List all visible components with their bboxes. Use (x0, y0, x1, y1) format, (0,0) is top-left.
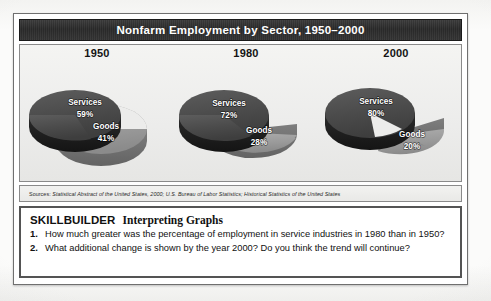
year-label-row: 1950 1980 2000 (20, 47, 461, 63)
skillbuilder-question-list: 1. How much greater was the percentage o… (30, 228, 452, 255)
pie-chart-2000: Services 80% Goods 20% (320, 63, 470, 173)
question-number-2: 2. (30, 242, 45, 253)
chart-panel: 1950 1980 2000 (19, 44, 462, 182)
skillbuilder-box: SKILLBUILDER Interpreting Graphs 1. How … (19, 206, 462, 278)
question-text-2: What additional change is shown by the y… (45, 242, 452, 254)
page-background: Nonfarm Employment by Sector, 1950–2000 … (0, 0, 491, 301)
slice-label-goods-2000: Goods (399, 130, 425, 139)
source-item-1: Statistical Abstract of the United State… (52, 191, 164, 197)
figure-title-bar: Nonfarm Employment by Sector, 1950–2000 (19, 19, 462, 41)
source-item-2: U.S. Bureau of Labor Statistics; (166, 191, 243, 197)
pie-chart-1980: Services 72% Goods 28% (171, 63, 321, 173)
slice-value-services-2000: 80% (368, 109, 385, 118)
slice-label-services-1980: Services (212, 99, 246, 108)
pie-chart-1950: Services 59% Goods 41% (23, 63, 173, 173)
slice-value-goods-2000: 20% (404, 142, 421, 151)
year-label-1980: 1980 (211, 47, 281, 59)
year-label-2000: 2000 (361, 47, 431, 59)
figure-title: Nonfarm Employment by Sector, 1950–2000 (116, 24, 364, 36)
list-item: 1. How much greater was the percentage o… (30, 228, 452, 240)
slice-value-services-1980: 72% (221, 111, 238, 120)
skillbuilder-label: SKILLBUILDER (30, 214, 116, 226)
slice-label-goods-1980: Goods (246, 126, 272, 135)
pie-chart-group: Services 59% Goods 41% (20, 63, 461, 181)
question-text-1: How much greater was the percentage of e… (45, 228, 452, 240)
skillbuilder-subtitle: Interpreting Graphs (123, 214, 223, 226)
slice-label-goods-1950: Goods (93, 122, 119, 131)
slice-value-services-1950: 59% (77, 110, 94, 119)
slice-label-services-2000: Services (359, 97, 393, 106)
slice-value-goods-1950: 41% (98, 134, 115, 143)
list-item: 2. What additional change is shown by th… (30, 242, 452, 254)
year-label-1950: 1950 (62, 47, 132, 59)
sources-bar: Sources: Statistical Abstract of the Uni… (19, 185, 462, 202)
slice-label-services-1950: Services (68, 98, 102, 107)
sources-line: Sources: Statistical Abstract of the Uni… (20, 191, 340, 197)
skillbuilder-heading: SKILLBUILDER Interpreting Graphs (30, 214, 452, 226)
sources-lead: Sources: (29, 191, 52, 197)
figure-frame: Nonfarm Employment by Sector, 1950–2000 … (13, 13, 468, 285)
question-number-1: 1. (30, 228, 45, 239)
source-item-3: Historical Statistics of the United Stat… (244, 191, 340, 197)
slice-value-goods-1980: 28% (251, 138, 268, 147)
